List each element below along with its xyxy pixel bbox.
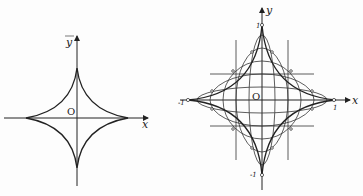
left-astroid-figure: y x O xyxy=(4,36,149,186)
tick-y-neg: -1 xyxy=(250,171,257,179)
x-axis-label: x xyxy=(142,118,149,131)
tick-x-pos: 1 xyxy=(333,104,337,112)
origin-label: O xyxy=(67,106,75,117)
diagram-canvas: y x O xyxy=(0,0,363,196)
x-axis-label: x xyxy=(352,94,359,107)
right-envelope-figure: y x O -1 1 1 -1 xyxy=(178,4,359,190)
y-axis-label: y xyxy=(265,4,273,17)
y-axis-label: y xyxy=(65,36,73,49)
tick-x-neg: -1 xyxy=(178,99,185,107)
origin-label: O xyxy=(252,91,260,102)
tick-y-pos: 1 xyxy=(256,22,260,30)
